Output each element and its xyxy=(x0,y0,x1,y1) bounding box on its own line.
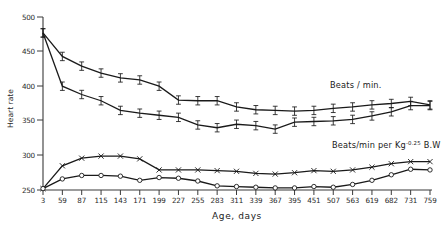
y-axis-ticks xyxy=(37,17,43,190)
x-tick-label: 143 xyxy=(114,196,127,205)
circle-marker xyxy=(254,185,258,189)
x-tick-label: 171 xyxy=(133,196,146,205)
circle-marker xyxy=(273,186,277,190)
x-tick-label: 115 xyxy=(94,196,107,205)
x-axis-ticks xyxy=(43,190,430,195)
data-series-layer xyxy=(40,29,432,192)
circle-marker xyxy=(370,178,374,182)
cross-marker xyxy=(60,163,65,168)
circle-marker xyxy=(292,186,296,190)
x-tick-label: 3 xyxy=(41,196,45,205)
circle-marker xyxy=(215,184,219,188)
x-tick-label: 283 xyxy=(211,196,224,205)
series-line xyxy=(43,156,430,189)
x-tick-label: 563 xyxy=(346,196,359,205)
heart-rate-line-chart: 500 450 400 350 300 250 Heart rate 35987… xyxy=(0,0,441,226)
circle-marker xyxy=(80,173,84,177)
circle-marker xyxy=(350,182,354,186)
circle-marker xyxy=(99,173,103,177)
circle-marker xyxy=(408,167,412,171)
circle-marker xyxy=(118,174,122,178)
y-tick-label: 500 xyxy=(22,13,36,22)
circle-marker xyxy=(41,186,45,190)
x-axis-title: Age, days xyxy=(212,211,262,221)
circle-marker xyxy=(428,168,432,172)
x-tick-label: 731 xyxy=(404,196,417,205)
x-tick-label: 87 xyxy=(77,196,86,205)
circle-marker xyxy=(331,185,335,189)
circle-marker xyxy=(157,175,161,179)
x-tick-label: 682 xyxy=(385,196,398,205)
x-tick-label: 619 xyxy=(365,196,379,205)
circle-marker xyxy=(234,184,238,188)
y-axis-tick-labels: 500 450 400 350 300 250 xyxy=(22,13,36,195)
y-tick-label: 350 xyxy=(22,116,36,125)
x-axis-tick-labels: 3598711514317119922725528331133936739545… xyxy=(41,196,437,205)
x-tick-label: 227 xyxy=(172,196,185,205)
x-tick-label: 759 xyxy=(423,196,437,205)
x-tick-label: 255 xyxy=(191,196,204,205)
series-0 xyxy=(41,29,433,116)
y-tick-label: 300 xyxy=(22,151,36,160)
circle-marker xyxy=(138,178,142,182)
x-tick-label: 451 xyxy=(307,196,320,205)
chart-figure: 500 450 400 350 300 250 Heart rate 35987… xyxy=(0,0,441,226)
x-tick-label: 395 xyxy=(288,196,301,205)
x-tick-label: 199 xyxy=(153,196,167,205)
circle-marker xyxy=(389,173,393,177)
x-tick-label: 339 xyxy=(249,196,263,205)
y-tick-label: 400 xyxy=(22,82,36,91)
x-tick-label: 507 xyxy=(327,196,340,205)
circle-marker xyxy=(312,184,316,188)
x-tick-label: 311 xyxy=(230,196,243,205)
x-tick-label: 367 xyxy=(269,196,282,205)
circle-marker xyxy=(60,177,64,181)
y-axis-title: Heart rate xyxy=(6,89,15,128)
y-tick-label: 450 xyxy=(22,47,36,56)
circle-marker xyxy=(196,179,200,183)
annotation-suffix: B.W xyxy=(421,140,441,150)
circle-marker xyxy=(176,176,180,180)
annotation-superscript: -0.25 xyxy=(406,140,421,146)
x-tick-label: 59 xyxy=(58,196,67,205)
series-3 xyxy=(41,167,432,191)
beats-per-min-per-kg-label: Beats/min per Kg-0.25 B.W xyxy=(332,140,441,150)
annotation-prefix: Beats/min per Kg xyxy=(332,140,406,150)
beats-per-min-label: Beats / min. xyxy=(330,80,382,90)
y-tick-label: 250 xyxy=(22,186,36,195)
